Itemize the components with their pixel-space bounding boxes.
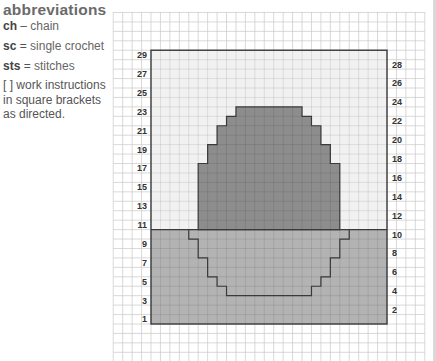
row-label: 15 (137, 182, 147, 192)
row-label: 13 (137, 201, 147, 211)
row-label: 26 (392, 78, 402, 88)
crochet-chart: 2927252321191715131197531 28262422201816… (0, 0, 436, 361)
row-label: 19 (137, 145, 147, 155)
row-label: 21 (137, 126, 147, 136)
row-label: 5 (142, 277, 147, 287)
row-label: 11 (137, 220, 147, 230)
row-label: 27 (137, 69, 147, 79)
row-label: 24 (392, 97, 402, 107)
row-label: 23 (137, 107, 147, 117)
left-row-labels: 2927252321191715131197531 (137, 50, 147, 324)
row-label: 17 (137, 163, 147, 173)
row-label: 28 (392, 60, 402, 70)
row-label: 12 (392, 211, 402, 221)
row-label: 8 (392, 248, 397, 258)
row-label: 2 (392, 305, 397, 315)
row-label: 9 (142, 239, 147, 249)
row-label: 7 (142, 258, 147, 268)
row-label: 4 (392, 286, 397, 296)
row-label: 25 (137, 88, 147, 98)
row-label: 20 (392, 135, 402, 145)
row-label: 29 (137, 50, 147, 60)
row-label: 22 (392, 116, 402, 126)
row-label: 6 (392, 267, 397, 277)
row-label: 10 (392, 230, 402, 240)
row-label: 14 (392, 192, 402, 202)
row-label: 16 (392, 173, 402, 183)
row-label: 18 (392, 154, 402, 164)
row-label: 1 (142, 314, 147, 324)
row-label: 3 (142, 296, 147, 306)
